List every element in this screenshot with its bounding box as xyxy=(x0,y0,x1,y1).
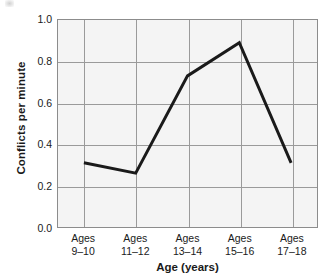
x-tick-label-line1: Ages xyxy=(261,232,323,245)
y-tick-label: 0.6 xyxy=(26,98,52,108)
line-chart-figure: Conflicts per minute 1.00.80.60.40.20.0 … xyxy=(0,0,332,279)
plot-grid-and-series xyxy=(58,20,317,227)
plot-area xyxy=(57,19,318,228)
x-axis-tick-labels: Ages9–10Ages11–12Ages13–14Ages15–16Ages1… xyxy=(57,232,318,262)
y-tick-label: 1.0 xyxy=(26,14,52,24)
x-axis-title: Age (years) xyxy=(57,261,318,273)
y-tick-label: 0.2 xyxy=(26,181,52,191)
y-axis-tick-labels: 1.00.80.60.40.20.0 xyxy=(24,0,52,279)
x-tick-label-line2: 17–18 xyxy=(261,245,323,258)
x-tick-label: Ages17–18 xyxy=(261,232,323,257)
series-layer xyxy=(58,20,317,227)
y-tick-label: 0.0 xyxy=(26,223,52,233)
y-tick-label: 0.4 xyxy=(26,139,52,149)
series-line-0 xyxy=(84,43,291,173)
scan-artifact xyxy=(5,0,14,7)
y-tick-label: 0.8 xyxy=(26,56,52,66)
